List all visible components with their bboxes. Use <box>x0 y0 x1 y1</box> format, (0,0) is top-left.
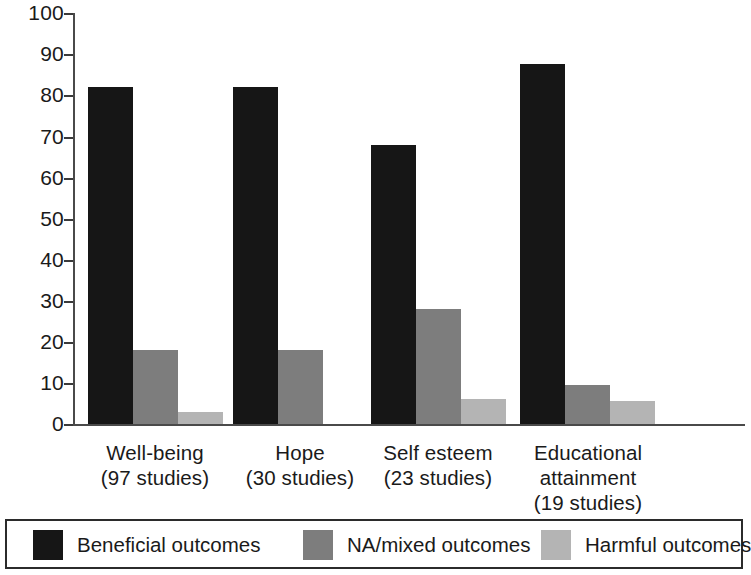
x-category-label-line: attainment <box>493 465 683 490</box>
bar-1-2 <box>133 350 178 424</box>
x-category-label-line: (19 studies) <box>493 490 683 515</box>
legend-swatch-icon-beneficial <box>33 530 63 560</box>
bar-3-1 <box>371 145 416 424</box>
legend-item-harmful: Harmful outcomes <box>541 529 751 561</box>
legend: Beneficial outcomes NA/mixed outcomes Ha… <box>5 519 743 569</box>
bar-4-1 <box>520 64 565 424</box>
plot-area: 100 90 80 70 60 50 40 30 20 10 0 Well-be… <box>0 0 751 512</box>
x-category-label-line: Educational <box>493 440 683 465</box>
legend-label-harmful: Harmful outcomes <box>585 534 751 556</box>
legend-item-beneficial: Beneficial outcomes <box>33 529 260 561</box>
bar-3-3 <box>461 399 506 424</box>
legend-label-beneficial: Beneficial outcomes <box>77 534 260 556</box>
bar-1-3 <box>178 412 223 424</box>
bar-1-1 <box>88 87 133 424</box>
legend-swatch-icon-na-mixed <box>303 530 333 560</box>
bar-4-3 <box>610 401 655 424</box>
legend-item-na-mixed: NA/mixed outcomes <box>303 529 530 561</box>
x-category-label-4: Educationalattainment(19 studies) <box>493 440 683 515</box>
bar-chart: 100 90 80 70 60 50 40 30 20 10 0 Well-be… <box>0 0 751 575</box>
bar-4-2 <box>565 385 610 424</box>
bar-3-2 <box>416 309 461 424</box>
bar-2-1 <box>233 87 278 424</box>
bars-layer <box>0 0 751 430</box>
bar-2-2 <box>278 350 323 424</box>
legend-swatch-icon-harmful <box>541 530 571 560</box>
x-axis-category-labels: Well-being(97 studies)Hope(30 studies)Se… <box>0 432 751 510</box>
legend-label-na-mixed: NA/mixed outcomes <box>347 534 530 556</box>
